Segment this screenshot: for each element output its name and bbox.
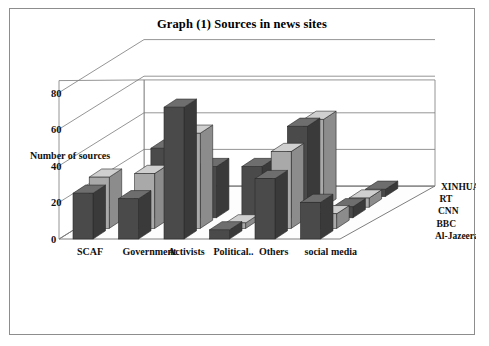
bar <box>301 194 334 239</box>
bar <box>73 185 106 239</box>
bar-front <box>73 193 93 239</box>
bar-front <box>164 107 184 239</box>
chart-frame: Graph (1) Sources in news sites 02040608… <box>9 8 475 335</box>
y-tick-label: 60 <box>51 124 62 135</box>
legend-label: XINHUA <box>441 182 476 192</box>
y-tick-label: 0 <box>51 234 56 245</box>
bar <box>119 191 152 239</box>
y-axis-title: Number of sources <box>30 150 110 161</box>
legend-label: RT <box>440 194 454 204</box>
legend-label: BBC <box>437 219 457 229</box>
bar-chart-plot: 020406080Number of sourcesSCAFGovernment… <box>10 9 476 336</box>
bar-side <box>200 125 213 228</box>
bar-front <box>301 202 321 239</box>
bar-side <box>184 99 197 239</box>
legend-label: CNN <box>438 206 459 216</box>
bar <box>164 99 197 239</box>
bar <box>255 170 288 239</box>
bar-side <box>275 170 288 239</box>
y-tick-label: 40 <box>51 161 62 172</box>
bar-front <box>210 230 230 239</box>
legend-label: Al-Jazeera <box>435 231 476 241</box>
bar-side <box>324 111 337 207</box>
category-label: SCAF <box>77 246 103 257</box>
category-label: Political.. <box>214 246 254 257</box>
category-label: social media <box>305 246 358 257</box>
category-label: Activists <box>168 246 205 257</box>
bar-side <box>93 185 106 239</box>
bar-front <box>255 179 275 239</box>
y-tick-label: 20 <box>51 197 62 208</box>
category-label: Others <box>259 246 289 257</box>
bar-side <box>216 158 229 217</box>
y-tick-label: 80 <box>51 88 62 99</box>
bar-front <box>119 199 139 239</box>
